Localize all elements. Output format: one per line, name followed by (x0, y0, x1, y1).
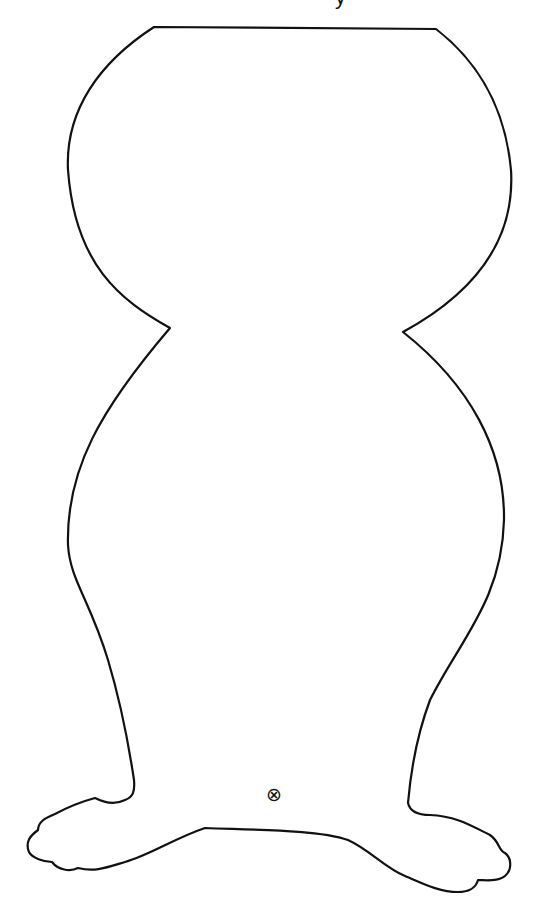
circled-x-mark-icon: ⊗ (264, 785, 284, 805)
owl-outline-path (28, 27, 512, 892)
template-outline-figure (0, 0, 547, 916)
